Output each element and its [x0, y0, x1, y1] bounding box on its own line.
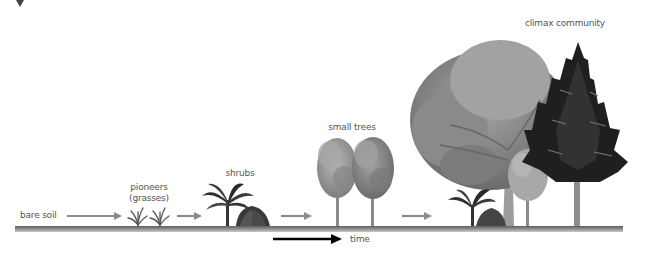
- small-tree-icon: [317, 138, 357, 226]
- shrub-icon: [236, 206, 270, 226]
- small-tree-icon: [352, 137, 394, 226]
- time-axis-label: time: [350, 234, 370, 245]
- stage-label-shrubs: shrubs: [226, 168, 255, 179]
- stage-arrow-icon: [177, 212, 202, 220]
- grass-icon: [128, 208, 147, 225]
- climax-shrub-icon: [448, 189, 506, 226]
- stage-arrow-icon: [281, 212, 312, 220]
- stage-label-climax-community: climax community: [525, 18, 605, 29]
- time-arrow-icon: [273, 234, 342, 244]
- stage-label-pioneers: pioneers: [130, 182, 167, 193]
- stage-arrow-icon: [67, 212, 122, 220]
- stage-label-bare-soil: bare soil: [20, 210, 57, 221]
- stage-label-small-trees: small trees: [328, 122, 375, 133]
- stage-arrow-icon: [402, 212, 432, 220]
- grass-icon: [150, 208, 169, 225]
- stage-sublabel-grasses: (grasses): [129, 193, 169, 204]
- ground-line: [15, 226, 623, 232]
- succession-diagram: bare soil pioneers (grasses) shrubs smal…: [0, 0, 655, 258]
